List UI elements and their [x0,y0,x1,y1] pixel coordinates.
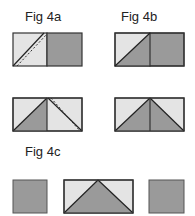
fig-4b-diagram [115,33,184,66]
quilt-diagram [0,0,195,216]
fig-4c-step1-right [115,98,184,131]
fig-4a-diagram [13,33,82,66]
fig-4c-step1-left [13,98,82,131]
fig-4c-step2 [13,180,184,213]
